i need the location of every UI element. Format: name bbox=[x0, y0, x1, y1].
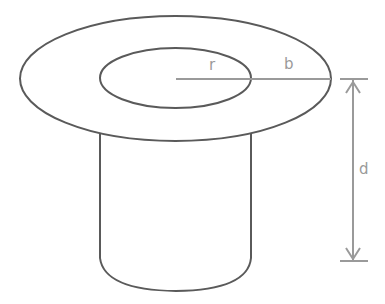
diagram-canvas bbox=[0, 0, 385, 304]
label-d: d bbox=[359, 162, 369, 177]
cylinder-body bbox=[100, 133, 251, 291]
label-r: r bbox=[209, 58, 215, 73]
label-b: b bbox=[284, 57, 294, 72]
